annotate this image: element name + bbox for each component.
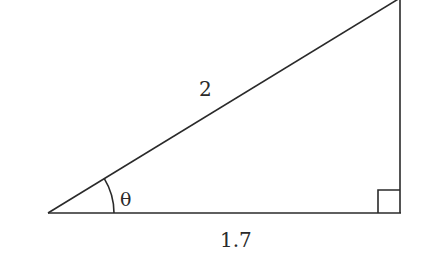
- angle-label: θ: [120, 188, 131, 210]
- angle-arc: [104, 179, 114, 213]
- hypotenuse-line: [48, 0, 400, 213]
- triangle-diagram: 2 θ 1.7: [0, 0, 421, 262]
- base-label: 1.7: [220, 228, 252, 252]
- right-angle-marker: [378, 190, 400, 213]
- hypotenuse-label: 2: [199, 77, 212, 101]
